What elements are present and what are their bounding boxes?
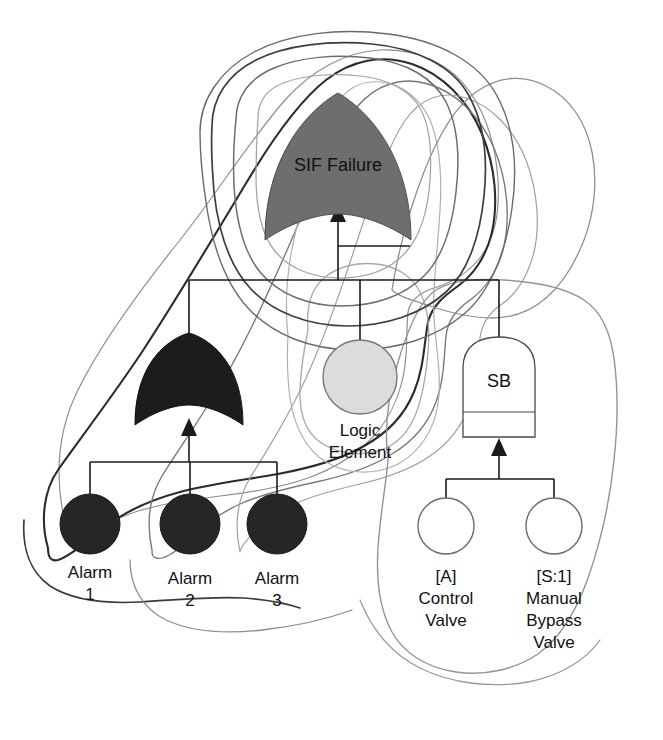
alarm-2-label-line1: Alarm xyxy=(168,569,212,588)
manual-bypass-valve-label-line3: Bypass xyxy=(526,611,582,630)
fault-tree-svg: SIF Failure SB Logic Element Alarm 1 Ala… xyxy=(0,0,663,740)
alarm-2-label-line2: 2 xyxy=(185,591,194,610)
cutset-loop-alarms-bottom-sweep-2 xyxy=(130,560,352,632)
fault-tree-diagram: SIF Failure SB Logic Element Alarm 1 Ala… xyxy=(0,0,663,740)
logic-element-label-line2: Element xyxy=(329,443,392,462)
cutset-loop-alarm1-sif xyxy=(44,59,495,560)
control-valve-label-line2: Control xyxy=(419,589,474,608)
arrowhead-sb-gate xyxy=(491,438,507,456)
manual-bypass-valve-label-line1: [S:1] xyxy=(537,567,572,586)
logic-element-circle[interactable] xyxy=(323,340,397,414)
manual-bypass-valve-circle[interactable] xyxy=(526,498,582,554)
alarm-3-circle[interactable] xyxy=(247,494,307,554)
manual-bypass-valve-label-line2: Manual xyxy=(526,589,582,608)
alarm-3-label-line2: 3 xyxy=(272,591,281,610)
logic-element-label-line1: Logic xyxy=(340,421,381,440)
control-valve-label-line3: Valve xyxy=(425,611,466,630)
node-manual-bypass-valve[interactable]: [S:1] Manual Bypass Valve xyxy=(526,498,582,652)
alarm-1-label-line2: 1 xyxy=(85,585,94,604)
node-control-valve[interactable]: [A] Control Valve xyxy=(418,498,474,630)
alarm-2-circle[interactable] xyxy=(160,494,220,554)
node-alarm-2[interactable]: Alarm 2 xyxy=(160,494,220,610)
control-valve-label-line1: [A] xyxy=(436,567,457,586)
sif-failure-label: SIF Failure xyxy=(294,155,382,175)
node-alarm-3[interactable]: Alarm 3 xyxy=(247,494,307,610)
manual-bypass-valve-label-line4: Valve xyxy=(533,633,574,652)
node-logic-element[interactable]: Logic Element xyxy=(323,340,397,462)
alarm-1-circle[interactable] xyxy=(60,494,120,554)
control-valve-circle[interactable] xyxy=(418,498,474,554)
node-alarm-1[interactable]: Alarm 1 xyxy=(60,494,120,604)
gate-sb[interactable]: SB xyxy=(463,337,535,437)
alarm-1-label-line1: Alarm xyxy=(68,563,112,582)
alarm-and-gate-shape[interactable] xyxy=(135,333,243,425)
sb-gate-label: SB xyxy=(487,371,511,391)
gate-alarm-and[interactable] xyxy=(135,333,243,425)
alarm-3-label-line1: Alarm xyxy=(255,569,299,588)
